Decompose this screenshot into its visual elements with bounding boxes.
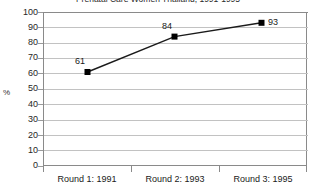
- data-point-label: 93: [268, 18, 278, 27]
- data-point-marker: [172, 34, 178, 40]
- series-line: [88, 23, 262, 72]
- y-tick-label: 70: [6, 53, 38, 62]
- y-tick-label: 20: [6, 131, 38, 140]
- chart-title: Prenatal Care Women Thailand, 1991-1995: [0, 0, 316, 4]
- y-tick-label: 50: [6, 84, 38, 93]
- x-category-label: Round 2: 1993: [131, 174, 219, 184]
- x-tick-mark: [306, 166, 307, 172]
- data-point-marker: [259, 20, 265, 26]
- x-tick-mark: [219, 166, 220, 172]
- y-tick-label: 0: [6, 161, 38, 170]
- x-category-label: Round 3: 1995: [219, 174, 307, 184]
- line-chart: Prenatal Care Women Thailand, 1991-1995 …: [0, 0, 316, 196]
- y-tick-label: 100: [6, 8, 38, 17]
- data-point-label: 84: [162, 22, 172, 31]
- y-axis-tick-labels: 100 90 80 70 60 50 40 30 20 10 0: [0, 0, 38, 196]
- data-point-label: 61: [75, 57, 85, 66]
- y-tick-label: 60: [6, 69, 38, 78]
- y-tick-label: 30: [6, 115, 38, 124]
- y-tick-label: 90: [6, 23, 38, 32]
- x-category-label: Round 1: 1991: [43, 174, 131, 184]
- data-point-marker: [85, 69, 91, 75]
- data-series: [44, 12, 308, 166]
- y-tick-label: 40: [6, 100, 38, 109]
- x-tick-mark: [43, 166, 44, 172]
- y-tick-label: 80: [6, 38, 38, 47]
- y-tick-label: 10: [6, 146, 38, 155]
- x-tick-mark: [131, 166, 132, 172]
- plot-area: 61 84 93: [43, 12, 307, 166]
